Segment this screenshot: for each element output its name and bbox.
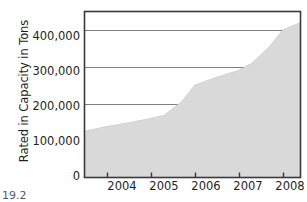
figure-container: Rated in Capacity in Tons 400,000 300,00…: [0, 0, 307, 202]
figure-caption: 19.2: [2, 190, 27, 202]
area-chart-plot: [0, 0, 307, 202]
